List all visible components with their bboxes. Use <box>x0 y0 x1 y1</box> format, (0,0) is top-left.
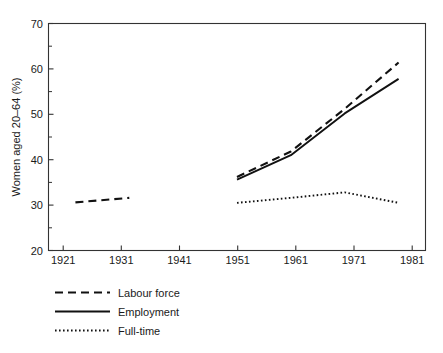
figure-container: 20 30 40 50 60 70 Women aged 20–64 (%) 1… <box>0 0 443 353</box>
x-tick-label: 1981 <box>400 254 424 266</box>
line-chart: 20 30 40 50 60 70 Women aged 20–64 (%) 1… <box>0 0 443 353</box>
y-tick-label: 20 <box>31 245 43 257</box>
y-tick-label: 30 <box>31 199 43 211</box>
x-tick-label: 1931 <box>109 254 133 266</box>
series-full-time <box>237 192 399 202</box>
series-labour-force <box>75 198 129 203</box>
series-labour-force <box>237 63 399 177</box>
x-axis-tick-labels: 1921 1931 1941 1951 1961 1971 1981 <box>51 254 424 266</box>
legend-label-full-time: Full-time <box>118 325 160 337</box>
y-axis-title: Women aged 20–64 (%) <box>10 77 22 196</box>
x-tick-label: 1951 <box>225 254 249 266</box>
x-tick-label: 1941 <box>167 254 191 266</box>
y-tick-label: 50 <box>31 108 43 120</box>
x-tick-label: 1961 <box>284 254 308 266</box>
x-tick-label: 1921 <box>51 254 75 266</box>
y-tick-label: 40 <box>31 154 43 166</box>
legend-label-labour-force: Labour force <box>118 287 180 299</box>
x-tick-label: 1971 <box>342 254 366 266</box>
legend: Labour force Employment Full-time <box>55 287 180 337</box>
y-tick-label: 60 <box>31 63 43 75</box>
data-series-group <box>75 63 398 203</box>
x-axis-ticks <box>63 246 412 251</box>
plot-frame <box>49 24 426 251</box>
y-tick-label: 70 <box>31 18 43 30</box>
y-axis-tick-labels: 20 30 40 50 60 70 <box>31 18 43 257</box>
legend-label-employment: Employment <box>118 306 179 318</box>
